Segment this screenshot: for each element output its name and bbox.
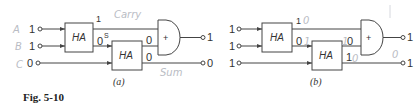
output-carry-value: 1: [207, 31, 213, 43]
input-a-value: 1: [29, 23, 35, 35]
ha1-sum-annotation: 1: [304, 36, 310, 47]
ha1-carry-value: 1: [296, 16, 301, 26]
ha2-sum-value: 0: [146, 51, 152, 63]
full-adder-diagram: A B C 1 1 0 HA 1 Carry 0 S HA 0 0: [0, 0, 419, 106]
output-carry-terminal: [201, 36, 205, 40]
ha2-carry-value: 0: [347, 35, 353, 47]
circuit-b: 1 1 1 HA 1 0 0 1 HA 1 0 1 0 + 1 1: [229, 5, 413, 88]
handwritten-c: C: [16, 59, 23, 70]
output-sum-value: 1: [407, 57, 413, 69]
input-3-value: 1: [229, 57, 235, 69]
circuit-a-label: (a): [113, 76, 125, 88]
output-sum-value: 0: [207, 57, 213, 69]
handwritten-carry: Carry: [114, 9, 142, 20]
input-2-terminal: [237, 44, 241, 48]
or-gate: [361, 20, 383, 55]
or-gate-symbol: +: [366, 33, 371, 43]
input-b-value: 1: [29, 40, 35, 52]
or-gate: [158, 20, 180, 55]
ha1-carry-value: 1: [96, 14, 101, 24]
input-1-terminal: [237, 27, 241, 31]
input-a-terminal: [38, 27, 42, 31]
handwritten-side-annotation: 0: [392, 49, 398, 60]
ha1-sum-value: 0: [97, 35, 103, 47]
circuit-a: A B C 1 1 0 HA 1 Carry 0 S HA 0 0: [12, 9, 213, 88]
handwritten-sum: Sum: [160, 67, 183, 78]
output-sum-terminal: [201, 61, 205, 65]
ha1-sum-value: 0: [296, 35, 302, 47]
half-adder-2-label: HA: [319, 50, 333, 61]
half-adder-1-label: HA: [72, 32, 86, 43]
handwritten-a: A: [12, 24, 20, 35]
figure-caption: Fig. 5-10: [23, 91, 64, 103]
ha1-carry-annotation: 0: [303, 15, 309, 26]
input-b-terminal: [38, 44, 42, 48]
half-adder-1-label: HA: [270, 32, 284, 43]
input-c-terminal: [36, 61, 40, 65]
ha1-sum-annotation: S: [104, 32, 109, 39]
output-carry-terminal: [401, 36, 405, 40]
handwritten-b: B: [15, 41, 22, 52]
input-3-terminal: [237, 61, 241, 65]
or-gate-symbol: +: [163, 33, 168, 43]
half-adder-2-label: HA: [119, 50, 133, 61]
input-c-value: 0: [27, 57, 33, 69]
ha2-sum-annotation: 0: [352, 53, 358, 64]
output-sum-terminal: [401, 61, 405, 65]
input-2-value: 1: [229, 40, 235, 52]
ha2-carry-value: 0: [146, 34, 152, 46]
circuit-b-label: (b): [310, 76, 322, 88]
output-carry-value: 1: [407, 31, 413, 43]
input-1-value: 1: [229, 23, 235, 35]
